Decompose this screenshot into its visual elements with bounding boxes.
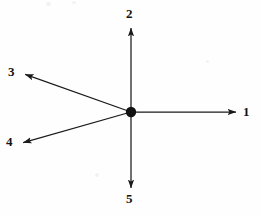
vector-diagram-canvas [0, 0, 260, 216]
vector-label-1: 1 [243, 105, 250, 118]
vector-label-4: 4 [6, 135, 13, 148]
vector-label-5: 5 [126, 192, 133, 205]
vector-label-3: 3 [8, 65, 15, 78]
vector-diagram-figure: 1 2 3 4 5 [0, 0, 260, 216]
vector-line-3 [25, 74, 131, 112]
vector-line-4 [23, 112, 131, 143]
vector-label-2: 2 [126, 7, 133, 20]
origin-point-dot [126, 107, 136, 117]
